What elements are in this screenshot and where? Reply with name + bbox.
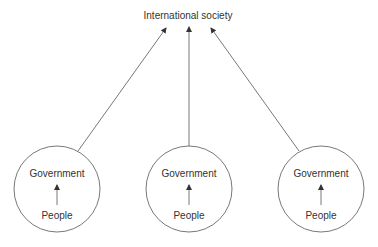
state-node-2: Government People xyxy=(146,146,232,232)
people-label: People xyxy=(41,210,73,221)
arrow-right-to-society xyxy=(211,28,299,151)
government-label: Government xyxy=(293,168,348,179)
state-node-1: Government People xyxy=(14,146,100,232)
government-label: Government xyxy=(161,168,216,179)
government-label: Government xyxy=(29,168,84,179)
people-label: People xyxy=(305,210,337,221)
diagram-canvas: International society Government People … xyxy=(0,0,378,247)
state-node-3: Government People xyxy=(278,146,364,232)
people-label: People xyxy=(173,210,205,221)
arrow-left-to-society xyxy=(78,28,166,151)
international-society-label: International society xyxy=(144,10,233,21)
